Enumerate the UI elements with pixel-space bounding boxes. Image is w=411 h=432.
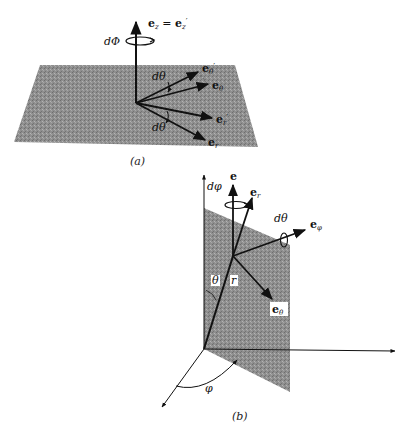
- panel-a: ez = ez′ dΦ eθ′ eθ er′ er dθ dθ (a): [14, 16, 258, 168]
- label-phi: φ: [205, 382, 213, 395]
- label-dtheta-b: dθ: [274, 212, 288, 225]
- label-theta: θ: [212, 274, 219, 287]
- label-dtheta-top: dθ: [152, 70, 166, 83]
- label-dphi: dφ: [207, 180, 222, 193]
- rotation-e-icon: [225, 202, 248, 209]
- panel-b: dφ e er dθ eφ θ r eθ φ (b): [162, 170, 395, 423]
- caption-b: (b): [232, 410, 248, 423]
- plane-b: [204, 208, 290, 392]
- label-r: r: [231, 274, 237, 287]
- label-er-b: er: [250, 186, 261, 200]
- label-dtheta-bottom: dθ: [152, 121, 166, 134]
- rotation-dphi-icon: [126, 37, 154, 45]
- label-e: e: [230, 170, 237, 183]
- oblique-axis: [162, 349, 204, 407]
- label-dPhi: dΦ: [104, 35, 120, 48]
- label-ephi: eφ: [310, 218, 322, 232]
- figure-canvas: ez = ez′ dΦ eθ′ eθ er′ er dθ dθ (a): [0, 0, 411, 432]
- label-ez-equals-ezprime: ez = ez′: [148, 16, 188, 31]
- caption-a: (a): [130, 155, 145, 168]
